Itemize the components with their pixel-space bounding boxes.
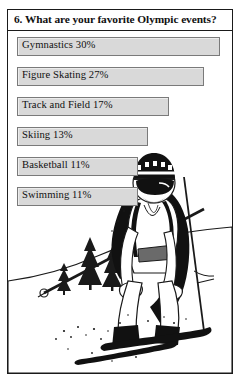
bar-label-swimming: Swimming 11% <box>22 189 91 200</box>
bar-label-gymnastics: Gymnastics 30% <box>22 39 96 50</box>
bar-label-track-and-field: Track and Field 17% <box>22 99 113 110</box>
bar-label-basketball: Basketball 11% <box>22 159 90 170</box>
title-bar: 6. What are your favorite Olympic events… <box>8 10 232 31</box>
bar-chart: Gymnastics 30% Figure Skating 27% Track … <box>8 31 232 373</box>
bar-label-figure-skating: Figure Skating 27% <box>22 69 109 80</box>
page-title: 6. What are your favorite Olympic events… <box>14 13 217 25</box>
bar-label-skiing: Skiing 13% <box>22 129 73 140</box>
poster-frame: 6. What are your favorite Olympic events… <box>7 9 233 374</box>
poster-root: 6. What are your favorite Olympic events… <box>0 0 241 386</box>
